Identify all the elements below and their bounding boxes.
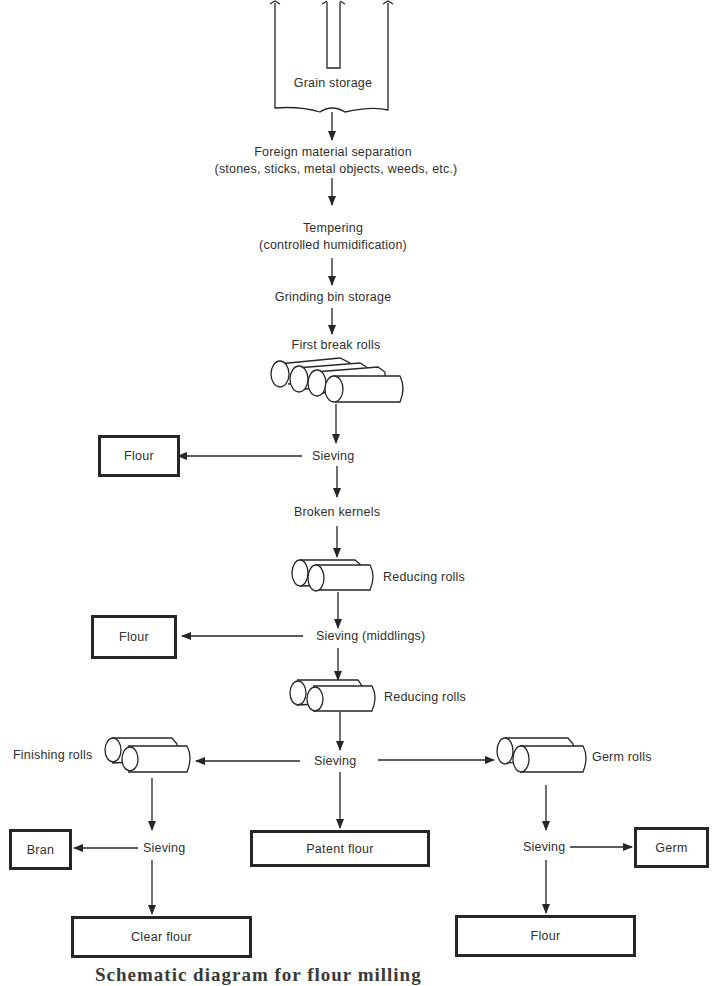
foreign-material-detail: (stones, sticks, metal objects, weeds, e… [215, 162, 458, 177]
finishing-rolls-icon [105, 738, 190, 772]
finishing-rolls-label: Finishing rolls [13, 748, 92, 763]
silo-icon [270, 1, 393, 112]
flour-box-3-label: Flour [531, 929, 561, 943]
flour-box-2-label: Flour [119, 630, 149, 644]
clear-flour-box: Clear flour [71, 916, 252, 958]
grain-storage-label: Grain storage [294, 76, 372, 91]
bran-box: Bran [9, 829, 72, 870]
sieving-1-label: Sieving [312, 449, 354, 464]
germ-rolls-label: Germ rolls [592, 750, 652, 765]
grinding-bin-label: Grinding bin storage [275, 290, 392, 305]
tempering-label: Tempering [303, 221, 363, 236]
reducing-rolls-2-icon [290, 680, 375, 711]
flour-box-2: Flour [91, 615, 177, 659]
flour-box-1-label: Flour [124, 449, 154, 463]
foreign-material-label: Foreign material separation [254, 145, 412, 160]
clear-flour-box-label: Clear flour [131, 930, 192, 944]
flour-box-1: Flour [98, 435, 180, 477]
germ-rolls-icon [497, 738, 586, 772]
reducing-rolls-1-label: Reducing rolls [383, 570, 465, 585]
germ-box: Germ [634, 827, 709, 868]
left-sieving-label: Sieving [143, 841, 185, 856]
figure-caption: Schematic diagram for flour milling [95, 964, 422, 986]
germ-box-label: Germ [655, 841, 687, 855]
reducing-rolls-1-icon [292, 560, 373, 591]
reducing-rolls-2-label: Reducing rolls [384, 690, 466, 705]
bran-box-label: Bran [27, 843, 55, 857]
patent-flour-box: Patent flour [250, 830, 430, 867]
first-break-rolls-label: First break rolls [292, 338, 381, 353]
right-sieving-label: Sieving [523, 840, 565, 855]
flour-box-3: Flour [455, 915, 636, 957]
broken-kernels-label: Broken kernels [294, 505, 380, 520]
patent-flour-box-label: Patent flour [306, 842, 374, 856]
sieving-3-label: Sieving [314, 754, 356, 769]
sieving-middlings-label: Sieving (middlings) [316, 629, 425, 644]
tempering-detail: (controlled humidification) [259, 238, 407, 253]
first-break-rolls-icon [271, 358, 403, 402]
